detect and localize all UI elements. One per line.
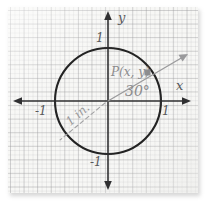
x-axis-label: x (176, 78, 183, 93)
x-tick-label-positive: 1 (162, 104, 170, 118)
point-p-label: P(x, y) (111, 65, 150, 79)
x-tick-label-negative: -1 (35, 104, 47, 118)
y-axis-arrow-down (104, 181, 112, 190)
figure-canvas: y x 1 -1 -1 1 P(x, y) 30° 1 in. (0, 0, 207, 202)
y-axis-label: y (118, 10, 125, 25)
angle-label: 30° (125, 83, 150, 99)
y-tick-label-negative: -1 (90, 155, 102, 169)
terminal-ray-arrow (179, 54, 189, 62)
y-axis-arrow-up (104, 11, 112, 20)
y-tick-label-positive: 1 (96, 31, 104, 45)
x-axis-arrow-right (182, 97, 191, 105)
x-axis-arrow-left (13, 97, 22, 105)
